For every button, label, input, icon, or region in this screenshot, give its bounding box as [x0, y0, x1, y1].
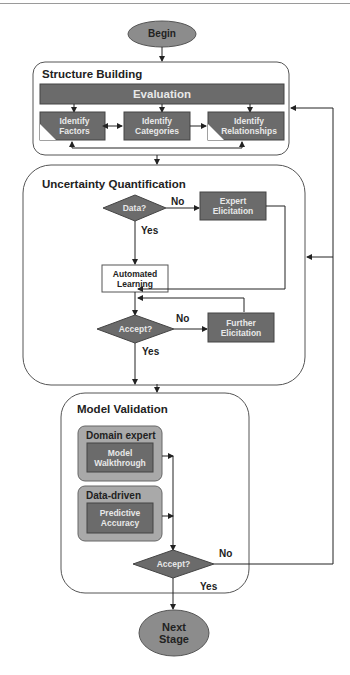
- identify-factors-label: Identify Factors: [44, 112, 105, 140]
- data-yes-label: Yes: [141, 225, 158, 236]
- accept-no-label-2: No: [219, 548, 232, 559]
- group-title-structure-building: Structure Building: [42, 68, 142, 80]
- model-walkthrough-label: Model Walkthrough: [87, 443, 153, 472]
- expert-elicitation-label: Expert Elicitation: [200, 192, 266, 220]
- identify-categories-label: Identify Categories: [124, 112, 190, 140]
- group-title-model-validation: Model Validation: [77, 403, 168, 415]
- data-driven-title: Data-driven: [86, 490, 141, 501]
- data-no-label: No: [171, 196, 184, 207]
- domain-expert-title: Domain expert: [86, 430, 155, 441]
- evaluation-label: Evaluation: [40, 84, 284, 104]
- accept-decision-2-label: Accept?: [133, 557, 214, 571]
- accept-no-label-1: No: [176, 313, 189, 324]
- group-title-uncertainty-quantification: Uncertainty Quantification: [42, 178, 186, 190]
- identify-relationships-label: Identify Relationships: [214, 112, 284, 140]
- next-stage-label: Next Stage: [139, 620, 209, 646]
- accept-decision-1-label: Accept?: [97, 322, 174, 336]
- accept-yes-label-1: Yes: [142, 346, 159, 357]
- data-decision-label: Data?: [103, 201, 166, 215]
- predictive-accuracy-label: Predictive Accuracy: [87, 503, 153, 533]
- accept-yes-label-2: Yes: [200, 581, 217, 592]
- begin-label: Begin: [128, 27, 196, 41]
- automated-learning-label: Automated Learning: [102, 265, 168, 292]
- further-elicitation-label: Further Elicitation: [208, 313, 274, 342]
